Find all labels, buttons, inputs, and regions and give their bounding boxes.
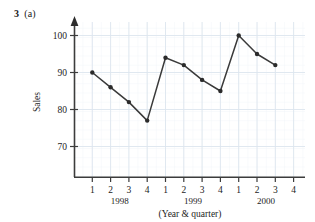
x-axis-year-labels: 1998 1999 2000 [111,196,276,206]
y-tick-label-70: 70 [58,142,68,152]
data-point [163,56,167,60]
year-label-2000: 2000 [257,196,276,206]
year-label-1998: 1998 [111,196,130,206]
year-label-1999: 1999 [184,196,203,206]
minor-gridlines [74,22,305,177]
figure-container: 3(a) [0,0,315,222]
x-tick-label: 4 [218,185,223,195]
data-point [237,33,241,37]
x-tick-label: 4 [291,185,296,195]
x-axis-tick-labels: 1 2 3 4 1 2 3 4 1 2 3 4 [90,185,296,195]
data-point [90,70,94,74]
y-tick-label-80: 80 [58,105,68,115]
x-tick-label: 1 [236,185,241,195]
y-axis-title: Sales [32,92,42,112]
x-tick-label: 1 [163,185,168,195]
y-axis-tick-labels: 100 90 80 70 [53,31,68,152]
x-tick-label: 1 [90,185,95,195]
x-tick-label: 2 [108,185,113,195]
data-point [145,118,149,122]
y-tick-label-100: 100 [53,31,68,41]
data-point [218,89,222,93]
data-point [200,78,204,82]
data-point [273,63,277,67]
x-axis-title: (Year & quarter) [159,209,222,220]
x-tick-label: 3 [273,185,278,195]
data-point [255,52,259,56]
x-tick-label: 2 [181,185,186,195]
x-tick-label: 3 [127,185,132,195]
data-point [127,100,131,104]
x-tick-label: 3 [200,185,205,195]
data-point [182,63,186,67]
y-tick-label-90: 90 [58,68,68,78]
x-tick-label: 2 [255,185,260,195]
data-point [108,85,112,89]
sales-line-chart: 100 90 80 70 Sales 1 2 3 4 [0,0,315,222]
x-tick-label: 4 [145,185,150,195]
